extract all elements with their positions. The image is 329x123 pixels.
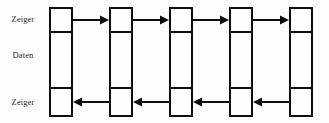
- node-cell-prev-pointer: [291, 89, 311, 115]
- node-cell-prev-pointer: [111, 89, 131, 115]
- list-node: [229, 7, 253, 117]
- label-pointer-prev: Zeiger: [0, 98, 46, 107]
- list-node: [169, 7, 193, 117]
- node-cell-next-pointer: [291, 9, 311, 33]
- arrow-next-1-2: [73, 14, 109, 26]
- label-data: Daten: [0, 51, 46, 60]
- arrow-next-3-4: [193, 14, 229, 26]
- arrow-prev-2-1: [73, 96, 109, 108]
- arrow-next-4-5: [253, 14, 289, 26]
- node-cell-next-pointer: [51, 9, 71, 33]
- node-cell-prev-pointer: [51, 89, 71, 115]
- node-cell-next-pointer: [111, 9, 131, 33]
- label-pointer-next: Zeiger: [0, 15, 46, 24]
- arrow-prev-4-3: [193, 96, 229, 108]
- arrow-prev-5-4: [253, 96, 289, 108]
- node-cell-data: [51, 33, 71, 89]
- arrow-next-2-3: [133, 14, 169, 26]
- list-node: [49, 7, 73, 117]
- node-cell-next-pointer: [231, 9, 251, 33]
- list-node: [109, 7, 133, 117]
- node-cell-prev-pointer: [171, 89, 191, 115]
- node-cell-data: [231, 33, 251, 89]
- node-cell-next-pointer: [171, 9, 191, 33]
- node-cell-prev-pointer: [231, 89, 251, 115]
- list-node: [289, 7, 313, 117]
- linked-list-diagram: ZeigerDatenZeiger: [0, 0, 329, 123]
- arrow-prev-3-2: [133, 96, 169, 108]
- node-cell-data: [171, 33, 191, 89]
- node-cell-data: [291, 33, 311, 89]
- node-cell-data: [111, 33, 131, 89]
